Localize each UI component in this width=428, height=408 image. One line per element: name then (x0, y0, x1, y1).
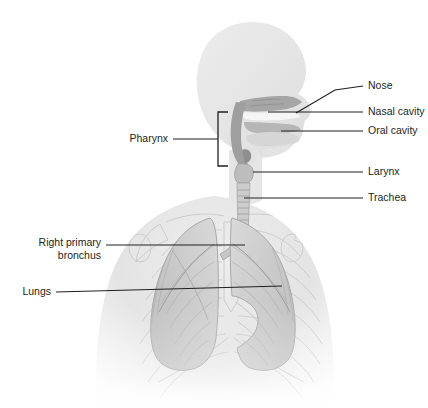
label-larynx: Larynx (368, 165, 400, 177)
label-pharynx: Pharynx (129, 132, 168, 144)
label-nasal-cavity: Nasal cavity (368, 105, 425, 117)
label-trachea: Trachea (368, 191, 406, 203)
side-fade (0, 0, 428, 408)
label-right-primary-bronchus-line1: Right primary (39, 236, 102, 248)
anatomy-illustration: Nose Nasal cavity Oral cavity Larynx Tra… (0, 0, 428, 408)
label-nose: Nose (368, 79, 393, 91)
label-right-primary-bronchus-line2: bronchus (58, 249, 101, 261)
label-lungs: Lungs (22, 285, 51, 297)
respiratory-system-figure: Nose Nasal cavity Oral cavity Larynx Tra… (0, 0, 428, 408)
label-oral-cavity: Oral cavity (368, 124, 418, 136)
